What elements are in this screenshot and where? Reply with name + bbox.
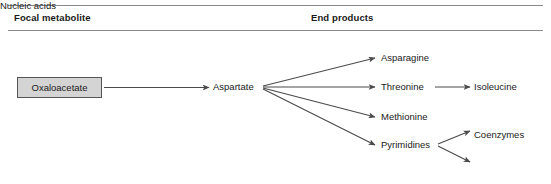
node-nucleic-acids-label: Nucleic acids: [0, 0, 56, 11]
node-oxaloacetate-box: Oxaloacetate: [17, 77, 102, 98]
arrow-aspartate-to-methionine: [263, 88, 375, 117]
header-bottom-rule: [8, 30, 543, 31]
node-isoleucine-label: Isoleucine: [474, 81, 517, 92]
node-pyrimidines-label: Pyrimidines: [381, 139, 430, 150]
arrow-pyrimidines-to-coenzymes: [438, 131, 470, 144]
node-aspartate-label: Aspartate: [213, 81, 254, 92]
node-coenzymes-label: Coenzymes: [474, 129, 524, 140]
node-threonine-label: Threonine: [381, 81, 424, 92]
arrow-aspartate-to-asparagine: [263, 58, 375, 86]
arrow-aspartate-to-pyrimidines: [263, 89, 375, 145]
node-methionine-label: Methionine: [381, 111, 427, 122]
node-oxaloacetate-label: Oxaloacetate: [32, 82, 88, 93]
arrow-pyrimidines-to-nucleic-acids: [438, 146, 470, 162]
column-header-end-products: End products: [311, 12, 373, 24]
pathway-figure: Focal metabolite End products Oxaloaceta…: [0, 0, 551, 184]
column-header-focal-metabolite: Focal metabolite: [14, 12, 91, 24]
node-asparagine-label: Asparagine: [381, 52, 429, 63]
table-top-rule: [8, 5, 543, 6]
